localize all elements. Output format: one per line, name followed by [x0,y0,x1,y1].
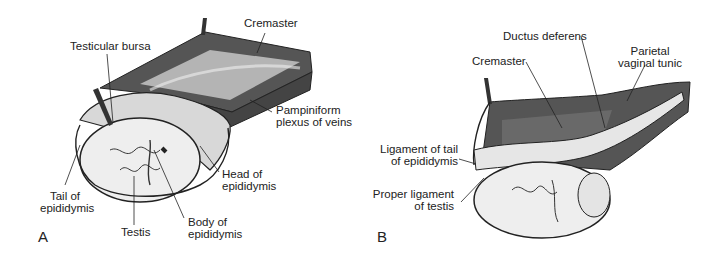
label-ductus-deferens: Ductus deferens [503,30,587,42]
label-tail-epididymis-line1: Tail of [40,190,90,202]
label-parietal-line1: Parietal [610,45,690,57]
label-cremaster-b: Cremaster [472,55,526,67]
panel-b: Ductus deferens Cremaster Parietal vagin… [362,0,724,257]
label-pampiniform-line1: Pampiniform [276,104,341,116]
label-proper-ligament-line2: of testis [362,200,454,212]
panel-a: Cremaster Testicular bursa Pampiniform p… [0,0,362,257]
testis-illustration-a [0,0,362,257]
label-head-epididymis-line2: epididymis [222,180,276,192]
label-proper-ligament-line1: Proper ligament [362,188,454,200]
label-testicular-bursa: Testicular bursa [70,40,151,52]
panel-letter-a: A [38,228,48,245]
label-body-epididymis-line1: Body of [188,216,227,228]
label-ligament-tail-line1: Ligament of tail [362,143,458,155]
label-testis: Testis [121,226,150,238]
panel-letter-b: B [377,228,387,245]
label-body-epididymis-line2: epididymis [188,228,242,240]
label-pampiniform-line2: plexus of veins [276,116,352,128]
label-head-epididymis-line1: Head of [222,168,262,180]
label-parietal-line2: vaginal tunic [610,57,690,69]
label-ligament-tail-line2: of epididymis [362,155,458,167]
label-tail-epididymis-line2: epididymis [40,202,90,214]
label-cremaster-a: Cremaster [244,17,298,29]
